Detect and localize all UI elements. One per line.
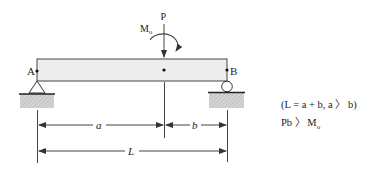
svg-text:a: a [96,119,102,131]
point-b-dot [225,68,228,71]
moment-label: Mo [140,23,152,35]
beam-diagram: A B P Mo a b L [0,0,371,174]
svg-text:b: b [192,119,198,131]
pin-support-left [19,81,55,108]
beam [37,59,227,81]
svg-text:L: L [127,145,134,157]
condition-length-relation: (L = a + b, a 〉 b) [281,96,357,111]
load-point-dot [162,68,165,71]
point-a-label: A [27,65,35,77]
point-b-label: B [230,65,237,77]
roller-support-right [208,81,245,108]
condition-moment-relation: Pb 〉 Mo [281,114,320,131]
dimension-b: b [166,119,226,131]
dimension-a: a [39,119,163,131]
load-label: P [161,11,167,22]
dimension-l: L [39,145,226,157]
point-a-dot [35,69,38,72]
